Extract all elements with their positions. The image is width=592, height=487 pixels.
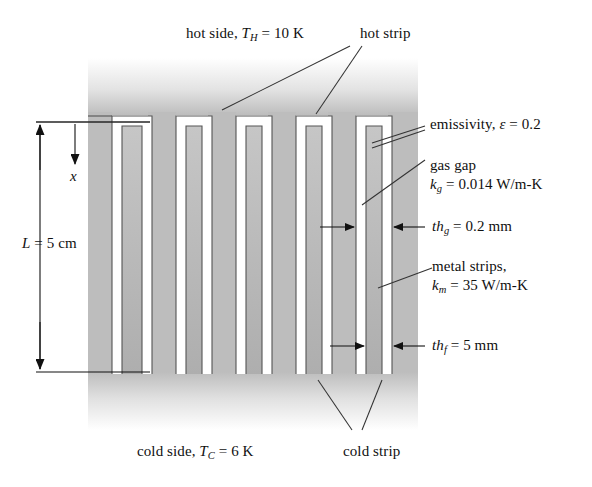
hot-block-body: [88, 58, 418, 115]
thg-symbol: th: [432, 218, 444, 234]
cold-block-group: [88, 372, 418, 430]
metal-line-2: km = 35 W/m-K: [432, 277, 528, 296]
hot-side-subscript: H: [250, 32, 258, 43]
cold-side-value: = 6 K: [215, 443, 254, 459]
label-hot-strip: hot strip: [360, 25, 411, 42]
cold-side-symbol: T: [199, 443, 207, 459]
label-th-g: thg = 0.2 mm: [432, 218, 512, 237]
label-gas-gap: gas gap kg = 0.014 W/m-K: [430, 157, 543, 195]
gas-gap-line-2: kg = 0.014 W/m-K: [430, 176, 543, 195]
emissivity-value: = 0.2: [505, 116, 540, 132]
gas-gap-line-1: gas gap: [430, 157, 543, 174]
km-value: = 35 W/m-K: [446, 277, 527, 293]
kg-value: = 0.014 W/m-K: [442, 176, 542, 192]
km-symbol: k: [432, 277, 439, 293]
label-length-L: L = 5 cm: [22, 235, 77, 252]
diagram-svg: [0, 0, 592, 487]
figure-canvas: hot side, TH = 10 K hot strip emissivity…: [0, 0, 592, 487]
gas-gap-text: gas gap: [430, 157, 476, 173]
metal-strips-text: metal strips,: [432, 258, 507, 274]
thf-symbol: th: [432, 337, 444, 353]
emissivity-prefix: emissivity,: [430, 116, 499, 132]
cold-block-body: [88, 372, 418, 430]
cold-strip-text: cold strip: [343, 443, 400, 459]
metal-line-1: metal strips,: [432, 258, 528, 275]
L-value: = 5 cm: [30, 235, 76, 251]
label-coordinate-x: x: [70, 168, 77, 185]
label-cold-side: cold side, TC = 6 K: [137, 443, 254, 462]
thg-value: = 0.2 mm: [449, 218, 512, 234]
x-symbol: x: [70, 168, 77, 184]
cold-side-prefix: cold side,: [137, 443, 199, 459]
label-metal-strips: metal strips, km = 35 W/m-K: [432, 258, 528, 296]
label-hot-side: hot side, TH = 10 K: [186, 25, 304, 44]
hot-side-prefix: hot side,: [186, 25, 242, 41]
label-th-f: thf = 5 mm: [432, 337, 498, 356]
thf-value: = 5 mm: [447, 337, 498, 353]
hot-strip-text: hot strip: [360, 25, 411, 41]
kg-symbol: k: [430, 176, 437, 192]
label-emissivity: emissivity, ε = 0.2: [430, 116, 541, 133]
hot-side-value: = 10 K: [258, 25, 304, 41]
label-cold-strip: cold strip: [343, 443, 400, 460]
cold-side-subscript: C: [208, 450, 215, 461]
hot-side-symbol: T: [242, 25, 250, 41]
